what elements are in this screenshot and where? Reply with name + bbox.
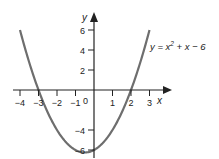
x-axis-arrow-icon: [163, 86, 172, 94]
x-tick-label: −1: [70, 98, 80, 108]
y-axis-arrow-icon: [90, 12, 98, 22]
equation-label: y = x2 + x − 6: [149, 40, 206, 52]
y-tick-label: 2: [80, 66, 85, 76]
x-tick-label: 3: [147, 98, 152, 108]
y-tick-label: 6: [80, 26, 85, 36]
y-tick-label: 4: [80, 46, 85, 56]
origin-label: 0: [83, 96, 88, 106]
y-tick-label: −6: [75, 146, 85, 156]
parabola-chart: x y −4−3−2−1123 642−4−6 0 y = x2 + x − 6: [0, 0, 219, 159]
x-tick-label: −4: [15, 98, 25, 108]
x-tick-label: 1: [110, 98, 115, 108]
x-tick-label: 2: [128, 98, 133, 108]
y-tick-label: −4: [75, 126, 85, 136]
x-axis-label: x: [156, 95, 163, 106]
x-tick-label: −3: [33, 98, 43, 108]
x-tick-label: −2: [52, 98, 62, 108]
y-axis-label: y: [81, 12, 88, 23]
